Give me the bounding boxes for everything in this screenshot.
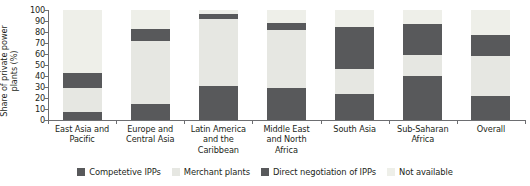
bar-segment[interactable] <box>63 88 102 112</box>
bar-segment[interactable] <box>471 96 510 120</box>
bar-column[interactable] <box>267 10 306 120</box>
legend-swatch-icon <box>261 168 269 176</box>
bar-column[interactable] <box>199 10 238 120</box>
y-axis-title: Share of private power plants (%) <box>0 11 34 131</box>
legend-item[interactable]: Competetive IPPs <box>77 167 161 177</box>
bar-segment[interactable] <box>63 112 102 120</box>
bar-segment[interactable] <box>199 19 238 86</box>
legend-label: Competetive IPPs <box>89 167 161 177</box>
bar-column[interactable] <box>471 10 510 120</box>
x-axis-label: East Asia and Pacific <box>48 124 116 145</box>
y-tick-mark <box>44 32 48 33</box>
x-axis-line <box>48 120 525 121</box>
bar-segment[interactable] <box>267 23 306 30</box>
bar-segment[interactable] <box>199 10 238 14</box>
bar-stack <box>199 10 238 120</box>
bar-segment[interactable] <box>63 73 102 88</box>
bar-stack <box>403 10 442 120</box>
bar-segment[interactable] <box>63 10 102 73</box>
bar-segment[interactable] <box>267 10 306 23</box>
y-tick-mark <box>44 54 48 55</box>
bar-segment[interactable] <box>335 94 374 120</box>
bar-stack <box>471 10 510 120</box>
bar-segment[interactable] <box>267 30 306 88</box>
legend-item[interactable]: Not available <box>387 167 453 177</box>
legend-label: Merchant plants <box>184 167 250 177</box>
bar-column[interactable] <box>63 10 102 120</box>
plot-area: 1009080706050403020100 <box>48 10 525 120</box>
y-tick-mark <box>44 10 48 11</box>
legend-item[interactable]: Merchant plants <box>172 167 250 177</box>
y-tick-mark <box>44 109 48 110</box>
legend-swatch-icon <box>77 168 85 176</box>
bar-column[interactable] <box>403 10 442 120</box>
bar-stack <box>267 10 306 120</box>
legend-swatch-icon <box>387 168 395 176</box>
bar-segment[interactable] <box>131 10 170 29</box>
legend-swatch-icon <box>172 168 180 176</box>
y-tick-mark <box>44 65 48 66</box>
y-tick-mark <box>44 76 48 77</box>
bar-column[interactable] <box>335 10 374 120</box>
y-tick-mark <box>44 43 48 44</box>
x-axis-label: Europe and Central Asia <box>116 124 184 145</box>
bar-stack <box>335 10 374 120</box>
x-axis-label: South Asia <box>321 124 389 134</box>
bar-segment[interactable] <box>403 76 442 120</box>
bar-segment[interactable] <box>131 41 170 104</box>
x-axis-label: Middle East and North Africa <box>252 124 320 155</box>
bar-segment[interactable] <box>471 56 510 96</box>
bar-segment[interactable] <box>267 88 306 120</box>
bar-segment[interactable] <box>471 35 510 56</box>
legend-item[interactable]: Direct negotiation of IPPs <box>261 167 376 177</box>
y-axis-line <box>48 10 49 120</box>
bar-segment[interactable] <box>335 10 374 27</box>
bar-segment[interactable] <box>335 27 374 70</box>
bar-segment[interactable] <box>471 10 510 35</box>
y-tick-label: 100 <box>30 5 45 15</box>
bar-segment[interactable] <box>403 24 442 55</box>
bar-segment[interactable] <box>335 69 374 93</box>
bar-stack <box>131 10 170 120</box>
x-tick-mark <box>525 120 526 124</box>
bar-segment[interactable] <box>199 86 238 120</box>
y-tick-mark <box>44 21 48 22</box>
y-tick-mark <box>44 87 48 88</box>
bar-segment[interactable] <box>199 14 238 18</box>
bar-segment[interactable] <box>131 29 170 41</box>
bar-segment[interactable] <box>131 104 170 121</box>
x-axis-label: Overall <box>457 124 525 134</box>
bar-segment[interactable] <box>403 10 442 24</box>
legend-label: Not available <box>399 167 453 177</box>
bar-column[interactable] <box>131 10 170 120</box>
bar-stack <box>63 10 102 120</box>
chart-legend: Competetive IPPsMerchant plantsDirect ne… <box>0 167 530 177</box>
legend-label: Direct negotiation of IPPs <box>273 167 376 177</box>
x-axis-label: Sub-Saharan Africa <box>389 124 457 145</box>
chart-container: Share of private power plants (%) 100908… <box>0 0 530 186</box>
y-tick-mark <box>44 98 48 99</box>
x-axis-label: Latin America and the Caribbean <box>184 124 252 155</box>
bar-segment[interactable] <box>403 55 442 76</box>
